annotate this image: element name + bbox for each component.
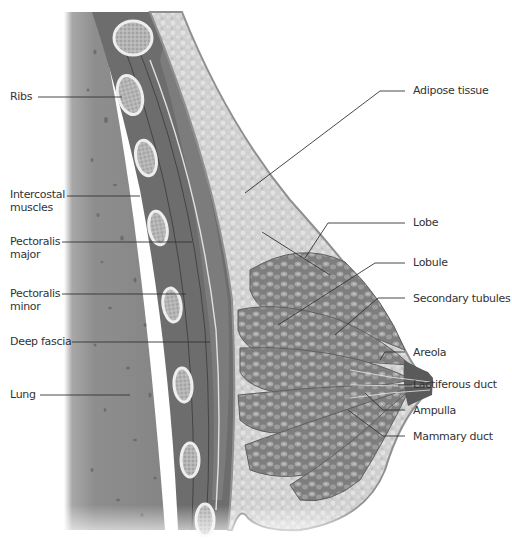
label-pectoralis-major: Pectoralis major bbox=[10, 235, 60, 261]
label-lobule: Lobule bbox=[413, 256, 448, 269]
label-deep-fascia: Deep fascia bbox=[10, 335, 71, 348]
label-pectoralis-major-line2: major bbox=[10, 248, 60, 261]
label-mammary-duct: Mammary duct bbox=[413, 430, 493, 443]
breast-anatomy-diagram: Ribs Intercostal muscles Pectoralis majo… bbox=[0, 0, 512, 547]
label-areola: Areola bbox=[413, 346, 446, 359]
label-lobe: Lobe bbox=[413, 216, 438, 229]
label-ribs: Ribs bbox=[10, 90, 32, 103]
label-lung: Lung bbox=[10, 388, 36, 401]
label-ampulla: Ampulla bbox=[413, 404, 456, 417]
label-lactiferous-duct: Lactiferous duct bbox=[413, 378, 497, 391]
label-intercostal-line2: muscles bbox=[10, 201, 65, 214]
label-intercostal-muscles: Intercostal muscles bbox=[10, 188, 65, 214]
label-intercostal-line1: Intercostal bbox=[10, 188, 65, 201]
label-pectoralis-minor-line1: Pectoralis bbox=[10, 287, 60, 300]
anatomy-illustration bbox=[0, 0, 512, 547]
label-pectoralis-minor-line2: minor bbox=[10, 300, 60, 313]
label-pectoralis-minor: Pectoralis minor bbox=[10, 287, 60, 313]
label-secondary-tubules: Secondary tubules bbox=[413, 292, 510, 305]
label-adipose-tissue: Adipose tissue bbox=[413, 84, 488, 97]
label-pectoralis-major-line1: Pectoralis bbox=[10, 235, 60, 248]
